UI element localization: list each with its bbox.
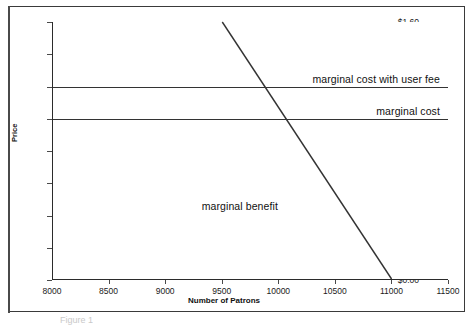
series-label-marginal-benefit: marginal benefit bbox=[202, 200, 278, 212]
plot-area: marginal cost with user fee marginal cos… bbox=[52, 22, 448, 280]
x-tick-label: 9500 bbox=[212, 286, 231, 296]
y-tick-mark bbox=[47, 280, 52, 281]
x-tick-mark bbox=[391, 280, 392, 284]
x-tick-mark bbox=[278, 280, 279, 284]
x-tick-mark bbox=[335, 280, 336, 284]
x-tick-label: 11000 bbox=[380, 286, 403, 296]
x-tick-mark bbox=[165, 280, 166, 284]
x-tick-mark bbox=[448, 280, 449, 284]
x-tick-label: 11500 bbox=[436, 286, 459, 296]
x-tick-mark bbox=[222, 280, 223, 284]
x-tick-label: 9000 bbox=[156, 286, 175, 296]
x-tick-label: 8500 bbox=[99, 286, 118, 296]
figure-caption: Figure 1 bbox=[60, 315, 93, 326]
series-line-marginal-benefit bbox=[53, 22, 448, 279]
x-axis-title: Number of Patrons bbox=[0, 296, 448, 305]
x-tick-label: 10500 bbox=[323, 286, 347, 296]
x-tick-mark bbox=[109, 280, 110, 284]
y-axis-title: Price bbox=[10, 124, 19, 142]
x-tick-label: 10000 bbox=[266, 286, 290, 296]
x-tick-label: 8000 bbox=[43, 286, 62, 296]
chart-figure: Price $0.00$0.20$0.40$0.60$0.80$1.00$1.2… bbox=[0, 0, 475, 327]
